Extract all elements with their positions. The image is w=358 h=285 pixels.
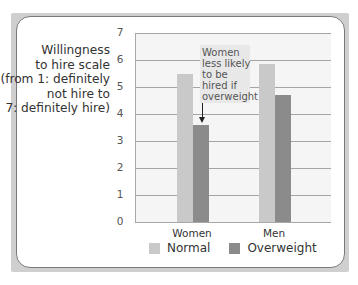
legend-label: Normal [167, 241, 210, 255]
bar-men-normal [259, 64, 275, 222]
annotation-line: less likely [202, 58, 250, 69]
legend-swatch-normal [149, 243, 160, 254]
y-tick-label: 6 [114, 53, 126, 65]
legend-item-normal: Normal [149, 241, 210, 255]
legend-item-overweight: Overweight [229, 241, 316, 255]
annotation-box: Women less likely to be hired if overwei… [200, 45, 250, 103]
x-tick-label: Men [249, 227, 299, 239]
annotation-line: overweight [202, 91, 250, 102]
y-axis-label-line: 7: definitely hire) [0, 101, 110, 116]
legend: Normal Overweight [149, 241, 336, 255]
legend-swatch-overweight [229, 243, 240, 254]
y-tick-label: 5 [114, 80, 126, 92]
y-axis-label-line: (from 1: definitely [0, 72, 110, 87]
annotation-arrow-icon [199, 117, 205, 123]
gridline [136, 195, 331, 196]
y-tick-label: 4 [114, 107, 126, 119]
y-tick-label: 1 [114, 188, 126, 200]
annotation-line: hired if [202, 80, 250, 91]
y-axis-label: Willingness to hire scale (from 1: defin… [0, 43, 110, 116]
gridline [136, 141, 331, 142]
y-tick-label: 3 [114, 134, 126, 146]
bar-women-normal [177, 74, 193, 223]
y-tick-label: 7 [114, 26, 126, 38]
y-axis-label-line: to hire scale [0, 58, 110, 73]
x-tick-label: Women [167, 227, 217, 239]
annotation-line: Women [202, 47, 250, 58]
gridline [136, 33, 331, 34]
bar-women-overweight [193, 125, 209, 222]
y-tick-label: 2 [114, 161, 126, 173]
annotation-line: to be [202, 69, 250, 80]
y-tick-label: 0 [114, 215, 126, 227]
gridline [136, 114, 331, 115]
bar-men-overweight [275, 95, 291, 222]
gridline [136, 168, 331, 169]
y-axis-label-line: not hire to [0, 87, 110, 102]
legend-label: Overweight [247, 241, 316, 255]
y-axis-label-line: Willingness [0, 43, 110, 58]
